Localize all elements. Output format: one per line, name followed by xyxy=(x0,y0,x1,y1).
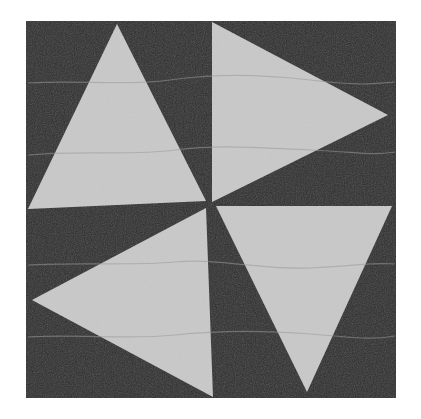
quilt-block-photo xyxy=(0,0,421,419)
